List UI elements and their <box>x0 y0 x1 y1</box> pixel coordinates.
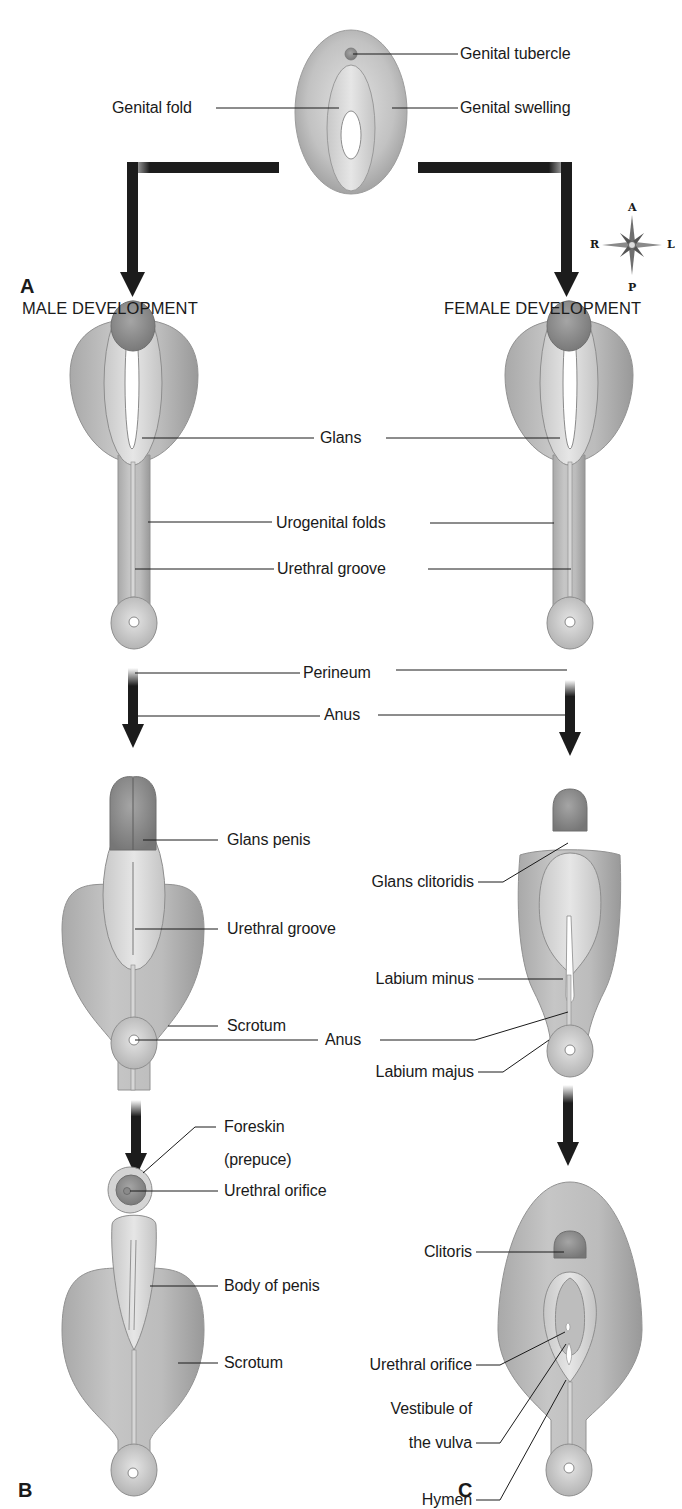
progress-arrow-female-1 <box>559 680 581 756</box>
label-genital-swelling: Genital swelling <box>460 99 570 117</box>
label-anus-early: Anus <box>324 706 360 724</box>
label-glans-penis: Glans penis <box>227 831 310 849</box>
label-urethral-orifice-female: Urethral orifice <box>370 1356 472 1374</box>
label-vestibule-line2: the vulva <box>409 1434 472 1452</box>
label-anus-mid: Anus <box>325 1031 361 1049</box>
label-vestibule-line1: Vestibule of <box>390 1400 472 1418</box>
label-foreskin: Foreskin <box>224 1118 285 1136</box>
label-perineum: Perineum <box>303 664 371 682</box>
progress-arrow-female-2 <box>557 1085 579 1166</box>
progress-arrow-male-2 <box>125 1100 147 1177</box>
label-glans-clitoridis: Glans clitoridis <box>372 873 474 891</box>
label-scrotum-final: Scrotum <box>224 1354 283 1372</box>
header-female-development: FEMALE DEVELOPMENT <box>444 299 641 317</box>
progress-arrow-male-1 <box>122 668 144 748</box>
label-labium-minus: Labium minus <box>376 970 474 988</box>
compass-label-posterior: P <box>628 282 636 294</box>
panel-label-a: A <box>20 275 34 297</box>
label-body-of-penis: Body of penis <box>224 1277 320 1295</box>
branch-arrow-male <box>120 162 279 297</box>
label-scrotum-mid: Scrotum <box>227 1017 286 1035</box>
panel-label-c: C <box>458 1479 472 1501</box>
male-early-illustration <box>70 301 198 649</box>
female-mid-illustration <box>518 789 620 1077</box>
branch-arrow-female <box>418 162 579 297</box>
male-final-illustration <box>62 1167 204 1496</box>
label-labium-majus: Labium majus <box>376 1063 474 1081</box>
label-urethral-groove-mid: Urethral groove <box>227 920 336 938</box>
compass-rose-icon <box>602 215 662 275</box>
label-urogenital-folds: Urogenital folds <box>276 514 386 532</box>
male-mid-illustration <box>62 777 204 1090</box>
label-clitoris: Clitoris <box>424 1243 472 1261</box>
compass-label-anterior: A <box>628 202 637 214</box>
compass-label-left: L <box>667 239 675 251</box>
panel-label-b: B <box>18 1479 32 1501</box>
female-final-illustration <box>498 1182 642 1496</box>
label-genital-tubercle: Genital tubercle <box>460 45 570 63</box>
label-urethral-groove-early: Urethral groove <box>277 560 386 578</box>
indifferent-stage-illustration <box>295 30 407 194</box>
label-prepuce: (prepuce) <box>224 1151 292 1169</box>
female-early-illustration <box>505 301 633 649</box>
label-urethral-orifice-male: Urethral orifice <box>224 1182 326 1200</box>
label-glans: Glans <box>320 429 361 447</box>
compass-label-right: R <box>590 239 599 251</box>
header-male-development: MALE DEVELOPMENT <box>22 299 198 317</box>
label-genital-fold: Genital fold <box>112 99 192 117</box>
